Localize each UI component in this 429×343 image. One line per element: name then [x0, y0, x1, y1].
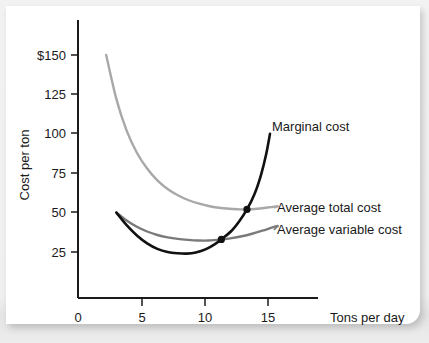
y-tick-label-125: 125: [44, 87, 66, 102]
x-axis-tick-labels: 0 5 10 15: [74, 310, 275, 325]
x-tick-label-10: 10: [198, 310, 212, 325]
y-tick-label-25: 25: [52, 245, 66, 260]
curve-label-average-total-cost: Average total cost: [277, 200, 381, 215]
x-axis-title: Tons per day: [330, 310, 405, 325]
curve-label-marginal-cost: Marginal cost: [272, 119, 350, 134]
y-tick-label-150: $150: [37, 48, 66, 63]
x-tick-label-0: 0: [74, 310, 81, 325]
curve-average-total-cost: [106, 55, 278, 209]
cost-curves-chart: $150 125 100 75 50 25 0 5 10 15 Cost per…: [0, 0, 429, 343]
data-curves: [106, 55, 278, 254]
curve-labels: Marginal cost Average total cost Average…: [272, 119, 402, 237]
y-axis-ticks: [71, 55, 78, 252]
page-background: $150 125 100 75 50 25 0 5 10 15 Cost per…: [0, 0, 429, 343]
x-axis-ticks: [142, 298, 268, 306]
mc-avc-intersection: [218, 236, 225, 243]
y-axis-title: Cost per ton: [17, 130, 32, 201]
x-tick-label-5: 5: [138, 310, 145, 325]
y-axis-tick-labels: $150 125 100 75 50 25: [37, 48, 66, 260]
curve-label-average-variable-cost: Average variable cost: [277, 222, 402, 237]
mc-atc-intersection: [243, 206, 250, 213]
y-tick-label-50: 50: [52, 205, 66, 220]
y-tick-label-100: 100: [44, 126, 66, 141]
y-tick-label-75: 75: [52, 166, 66, 181]
axes: [78, 20, 318, 298]
x-tick-label-15: 15: [261, 310, 275, 325]
curve-average-variable-cost: [116, 213, 277, 241]
